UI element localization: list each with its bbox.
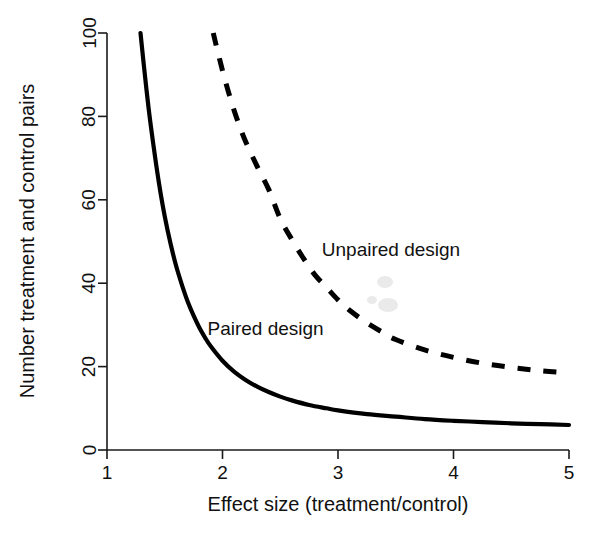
y-tick-label: 20 [79, 356, 100, 377]
x-tick-label: 1 [102, 462, 113, 483]
x-tick-label: 2 [217, 462, 228, 483]
y-axis: 020406080100 [79, 17, 108, 455]
x-tick-label: 3 [333, 462, 344, 483]
x-tick-label: 5 [564, 462, 575, 483]
chart-svg: 020406080100 12345 Paired design Unpaire… [0, 0, 591, 533]
series-label-paired-design: Paired design [208, 318, 324, 339]
x-axis-title: Effect size (treatment/control) [208, 493, 469, 515]
x-tick-label: 4 [448, 462, 459, 483]
y-tick-label: 80 [79, 106, 100, 127]
x-tick-group: 12345 [102, 450, 575, 483]
series-label-unpaired-design: Unpaired design [322, 239, 460, 260]
scan-artifacts [367, 276, 398, 312]
chart-figure: 020406080100 12345 Paired design Unpaire… [0, 0, 591, 533]
y-axis-title: Number treatment and control pairs [16, 84, 38, 399]
x-axis: 12345 [102, 450, 575, 483]
y-tick-label: 100 [79, 17, 100, 49]
y-tick-group: 020406080100 [79, 17, 108, 455]
y-tick-label: 40 [79, 273, 100, 294]
y-tick-label: 60 [79, 189, 100, 210]
y-tick-label: 0 [79, 445, 100, 456]
